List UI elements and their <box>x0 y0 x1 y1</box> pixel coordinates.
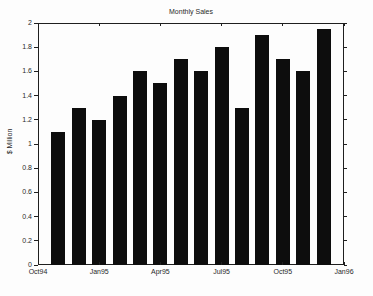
bar <box>113 96 127 265</box>
x-tick-mark <box>38 262 39 265</box>
y-tick-mark <box>34 216 38 217</box>
bar <box>255 35 269 265</box>
y-tick-mark <box>34 168 38 169</box>
y-tick-mark-right <box>344 168 347 169</box>
x-tick-mark <box>344 262 345 265</box>
y-tick-mark <box>34 240 38 241</box>
y-tick-label: 0.2 <box>0 237 32 245</box>
bar <box>194 71 208 265</box>
y-tick-mark-right <box>344 192 347 193</box>
bar <box>51 132 65 265</box>
y-tick-label: 0.4 <box>0 213 32 221</box>
x-tick-mark-top <box>221 23 222 26</box>
x-tick-label: Oct94 <box>16 268 60 276</box>
x-tick-mark <box>160 262 161 265</box>
y-tick-label: 1 <box>0 140 32 148</box>
bar <box>276 59 290 265</box>
y-tick-label: 0.8 <box>0 164 32 172</box>
x-tick-mark-top <box>282 23 283 26</box>
y-tick-mark-right <box>344 240 347 241</box>
bar <box>92 120 106 265</box>
bar <box>235 108 249 265</box>
bar <box>72 108 86 265</box>
y-tick-mark-right <box>344 144 347 145</box>
y-tick-label: 1.4 <box>0 92 32 100</box>
chart-title: Monthly Sales <box>38 8 344 15</box>
x-tick-mark <box>99 262 100 265</box>
y-tick-mark-right <box>344 95 347 96</box>
y-tick-label: 1.8 <box>0 43 32 51</box>
x-tick-mark-top <box>344 23 345 26</box>
y-tick-mark <box>34 144 38 145</box>
y-tick-mark <box>34 71 38 72</box>
bar <box>296 71 310 265</box>
bar <box>215 47 229 265</box>
y-tick-mark <box>34 47 38 48</box>
bar <box>174 59 188 265</box>
bar <box>133 71 147 265</box>
x-tick-mark-top <box>99 23 100 26</box>
x-tick-mark-top <box>38 23 39 26</box>
y-tick-mark-right <box>344 71 347 72</box>
y-tick-mark <box>34 119 38 120</box>
bar-chart-figure: Monthly Sales $ Million 00.20.40.60.811.… <box>0 0 373 296</box>
y-tick-mark-right <box>344 47 347 48</box>
bar <box>153 83 167 265</box>
y-tick-label: 1.6 <box>0 67 32 75</box>
bar <box>317 29 331 265</box>
x-tick-label: Jan95 <box>77 268 121 276</box>
y-tick-label: 1.2 <box>0 116 32 124</box>
x-tick-mark-top <box>160 23 161 26</box>
y-tick-mark <box>34 192 38 193</box>
y-tick-mark-right <box>344 119 347 120</box>
x-tick-label: Jul95 <box>200 268 244 276</box>
x-tick-mark <box>282 262 283 265</box>
x-tick-mark <box>221 262 222 265</box>
x-tick-label: Oct95 <box>261 268 305 276</box>
x-tick-label: Jan96 <box>322 268 366 276</box>
x-tick-label: Apr95 <box>138 268 182 276</box>
y-tick-mark <box>34 95 38 96</box>
y-tick-mark-right <box>344 216 347 217</box>
y-tick-label: 0.6 <box>0 188 32 196</box>
y-tick-label: 2 <box>0 19 32 27</box>
